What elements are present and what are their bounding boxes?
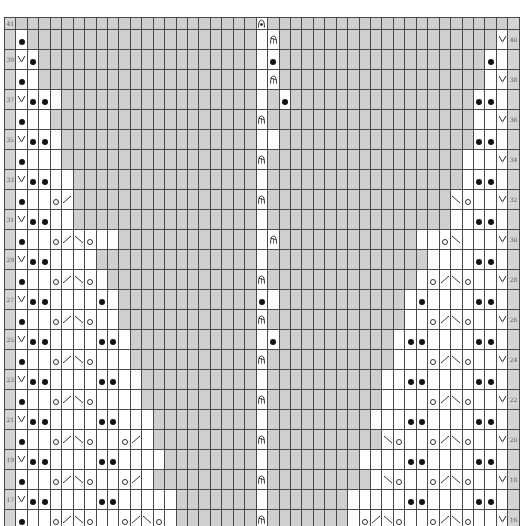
no-stitch-cell	[302, 509, 313, 526]
purl-dot-icon	[99, 419, 105, 425]
no-stitch-cell	[382, 69, 393, 89]
purl-cell	[107, 409, 118, 429]
knit-cell	[27, 149, 38, 169]
no-stitch-cell	[210, 369, 221, 389]
purl-cell	[96, 409, 107, 429]
yarn-over-icon	[87, 239, 93, 245]
no-stitch-cell	[348, 389, 359, 409]
purl-cell	[485, 49, 496, 69]
no-stitch-cell	[233, 249, 244, 269]
no-stitch-cell	[188, 269, 199, 289]
ssk-cell	[451, 469, 462, 489]
no-stitch-cell	[222, 489, 233, 509]
no-stitch-cell	[325, 229, 336, 249]
purl-cell	[27, 449, 38, 469]
no-stitch-cell	[165, 209, 176, 229]
purl-dot-icon	[19, 159, 25, 165]
purl-cell	[485, 409, 496, 429]
no-stitch-cell	[199, 309, 210, 329]
no-stitch-cell	[462, 69, 473, 89]
knit-cell	[416, 309, 427, 329]
no-stitch-cell	[107, 149, 118, 169]
knit-cell	[39, 349, 50, 369]
no-stitch-cell	[210, 129, 221, 149]
no-stitch-cell	[405, 169, 416, 189]
no-stitch-cell	[188, 289, 199, 309]
k2tog-icon	[440, 395, 450, 404]
no-stitch-cell	[245, 229, 256, 249]
no-stitch-cell	[210, 309, 221, 329]
knit-cell	[50, 129, 61, 149]
knit-cell	[405, 509, 416, 526]
yarn-over-icon	[465, 479, 471, 485]
no-stitch-cell	[165, 329, 176, 349]
yarn-over-cell	[462, 469, 473, 489]
purl-cell	[16, 509, 27, 526]
row-number-right	[508, 89, 519, 109]
row-number-right: 34	[508, 149, 519, 169]
no-stitch-cell	[245, 29, 256, 49]
no-stitch-cell	[268, 429, 279, 449]
no-stitch-cell	[130, 29, 141, 49]
no-stitch-cell	[393, 269, 404, 289]
purl-dot-icon	[19, 119, 25, 125]
no-stitch-cell	[439, 69, 450, 89]
k2tog-icon	[62, 475, 72, 484]
knit-cell	[119, 369, 130, 389]
no-stitch-cell	[142, 369, 153, 389]
no-stitch-cell	[153, 109, 164, 129]
no-stitch-cell	[393, 249, 404, 269]
no-stitch-cell	[107, 249, 118, 269]
row-number-left	[5, 509, 16, 526]
purl-dot-icon	[42, 339, 48, 345]
no-stitch-cell	[85, 169, 96, 189]
no-stitch-cell	[176, 169, 187, 189]
purl-cell	[27, 209, 38, 229]
no-stitch-cell	[451, 169, 462, 189]
no-stitch-cell	[107, 169, 118, 189]
purl-dot-icon	[99, 299, 105, 305]
no-stitch-cell	[382, 209, 393, 229]
no-stitch-cell	[199, 109, 210, 129]
knit-cell	[107, 229, 118, 249]
no-stitch-cell	[153, 329, 164, 349]
no-stitch-cell	[313, 109, 324, 129]
purl-cell	[39, 249, 50, 269]
chart-row-40: 40	[5, 29, 520, 49]
no-stitch-cell	[119, 169, 130, 189]
purl-dot-icon	[99, 459, 105, 465]
knit-cell	[439, 329, 450, 349]
knit-cell	[439, 289, 450, 309]
no-stitch-cell	[176, 449, 187, 469]
purl-dot-icon	[408, 379, 414, 385]
row-number-left: 29	[5, 249, 16, 269]
no-stitch-cell	[130, 209, 141, 229]
no-stitch-cell	[416, 49, 427, 69]
no-stitch-cell	[188, 369, 199, 389]
purl-dot-icon	[419, 339, 425, 345]
no-stitch-cell	[313, 369, 324, 389]
row-number-right	[508, 249, 519, 269]
no-stitch-cell	[428, 109, 439, 129]
no-stitch-cell	[393, 169, 404, 189]
no-stitch-cell	[313, 189, 324, 209]
purl-dot-icon	[488, 379, 494, 385]
no-stitch-cell	[107, 189, 118, 209]
knit-cell	[85, 369, 96, 389]
knit-cell	[50, 409, 61, 429]
no-stitch-cell	[325, 89, 336, 109]
no-stitch-cell	[153, 369, 164, 389]
k2tog-icon	[440, 435, 450, 444]
no-stitch-cell	[245, 289, 256, 309]
no-stitch-cell	[107, 49, 118, 69]
no-stitch-cell	[245, 149, 256, 169]
k2tog-cell	[130, 429, 141, 449]
knit-cell	[96, 269, 107, 289]
no-stitch-cell	[336, 169, 347, 189]
k2tog-cell	[62, 469, 73, 489]
no-stitch-cell	[233, 149, 244, 169]
arch-icon	[269, 235, 278, 244]
no-stitch-cell	[153, 29, 164, 49]
purl-cell	[96, 289, 107, 309]
no-stitch-cell	[119, 109, 130, 129]
